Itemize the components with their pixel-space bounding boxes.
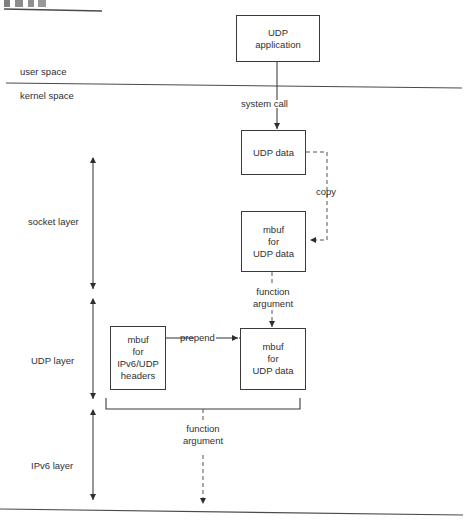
box-udp-application-line-2: application bbox=[255, 39, 300, 51]
label-function-argument-1-line-2: argument bbox=[238, 298, 308, 310]
box-mbuf-udp-line-2: for bbox=[267, 353, 278, 365]
box-udp-application-line-1: UDP bbox=[268, 27, 288, 39]
box-udp-application: UDP application bbox=[236, 15, 320, 62]
header-rule bbox=[4, 9, 102, 11]
layer-label-socket: socket layer bbox=[28, 216, 79, 228]
footer-rule bbox=[0, 509, 463, 515]
box-mbuf-headers-line-1: mbuf bbox=[127, 334, 148, 346]
label-user-space: user space bbox=[20, 66, 66, 78]
user-kernel-boundary-rule bbox=[6, 83, 462, 88]
box-mbuf-udp-data-udp: mbuf for UDP data bbox=[240, 328, 306, 390]
label-prepend: prepend bbox=[180, 332, 215, 344]
label-kernel-space: kernel space bbox=[20, 90, 74, 102]
label-copy: copy bbox=[316, 186, 336, 198]
layer-label-ipv6: IPv6 layer bbox=[31, 460, 73, 472]
label-function-argument-2-line-2: argument bbox=[168, 435, 238, 447]
box-udp-data-line-1: UDP data bbox=[253, 147, 294, 159]
box-mbuf-ipv6-udp-headers: mbuf for IPv6/UDP headers bbox=[110, 326, 166, 390]
box-mbuf-headers-line-3: IPv6/UDP bbox=[117, 358, 159, 370]
figure-page: user space kernel space socket layer UDP… bbox=[0, 0, 465, 529]
box-mbuf-socket-line-2: for bbox=[268, 236, 279, 248]
label-function-argument-2-line-1: function bbox=[168, 423, 238, 435]
box-mbuf-headers-line-2: for bbox=[132, 346, 143, 358]
label-function-argument-1-line-1: function bbox=[238, 286, 308, 298]
bracket-udp-layer bbox=[106, 398, 300, 409]
box-mbuf-socket-line-1: mbuf bbox=[263, 224, 284, 236]
label-system-call: system call bbox=[241, 98, 288, 110]
box-mbuf-udp-line-3: UDP data bbox=[252, 365, 293, 377]
box-udp-data: UDP data bbox=[241, 130, 306, 175]
diagram-vector-layer bbox=[0, 0, 465, 529]
box-mbuf-headers-line-4: headers bbox=[121, 370, 155, 382]
box-mbuf-udp-line-1: mbuf bbox=[262, 341, 283, 353]
box-mbuf-socket-line-3: UDP data bbox=[253, 248, 294, 260]
layer-label-udp: UDP layer bbox=[31, 355, 74, 367]
box-mbuf-udp-data-socket: mbuf for UDP data bbox=[241, 211, 306, 272]
